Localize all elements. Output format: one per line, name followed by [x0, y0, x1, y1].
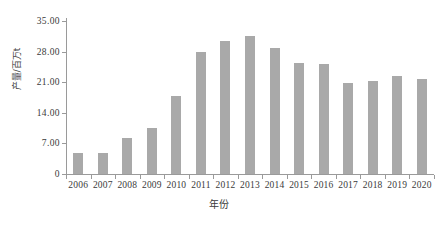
- x-axis-tick-mark: [140, 175, 141, 179]
- x-axis-tick-mark: [336, 175, 337, 179]
- y-axis-tick-label: 7.00: [18, 138, 60, 148]
- y-axis-tick-mark: [62, 113, 66, 114]
- y-axis-tick-labels: 07.0014.0021.0028.0035.00: [14, 0, 60, 226]
- x-axis-tick-mark: [213, 175, 214, 179]
- x-axis-tick-mark: [238, 175, 239, 179]
- x-axis-tick-mark: [262, 175, 263, 179]
- bar-chart: 产量/百万t 07.0014.0021.0028.0035.00 2006200…: [0, 0, 438, 226]
- x-axis-tick-label: 2020: [407, 180, 437, 191]
- bar: [196, 52, 206, 174]
- bar: [98, 153, 108, 174]
- y-axis-line: [66, 18, 67, 174]
- y-axis-tick-label: 35.00: [18, 16, 60, 26]
- bar: [392, 76, 402, 174]
- bar: [122, 138, 132, 174]
- bar: [220, 41, 230, 174]
- bar: [73, 153, 83, 174]
- bar: [245, 36, 255, 174]
- bar: [147, 128, 157, 174]
- bar: [319, 64, 329, 174]
- x-axis-tick-mark: [311, 175, 312, 179]
- x-axis-tick-mark: [385, 175, 386, 179]
- x-axis-tick-mark: [287, 175, 288, 179]
- x-axis-tick-mark: [360, 175, 361, 179]
- x-axis-tick-mark: [91, 175, 92, 179]
- y-axis-tick-label: 14.00: [18, 108, 60, 118]
- x-axis-tick-labels: 2006200720082009201020112012201320142015…: [66, 180, 434, 194]
- x-axis-tick-mark: [189, 175, 190, 179]
- bar: [417, 79, 427, 174]
- bar: [294, 63, 304, 174]
- bar: [270, 48, 280, 174]
- x-axis-tick-mark: [66, 175, 67, 179]
- x-axis-title: 年份: [0, 196, 438, 211]
- plot-area: [66, 21, 434, 174]
- x-axis-tick-mark: [115, 175, 116, 179]
- bar: [368, 81, 378, 174]
- y-axis-tick-mark: [62, 21, 66, 22]
- y-axis-tick-label: 0: [18, 169, 60, 179]
- y-axis-tick-mark: [62, 52, 66, 53]
- y-axis-tick-label: 28.00: [18, 47, 60, 57]
- x-axis-tick-mark: [434, 175, 435, 179]
- y-axis-tick-mark: [62, 82, 66, 83]
- x-axis-tick-mark: [164, 175, 165, 179]
- x-axis-line: [66, 174, 434, 175]
- x-axis-tick-mark: [409, 175, 410, 179]
- bar: [171, 96, 181, 174]
- y-axis-tick-mark: [62, 143, 66, 144]
- bar: [343, 83, 353, 174]
- y-axis-tick-label: 21.00: [18, 77, 60, 87]
